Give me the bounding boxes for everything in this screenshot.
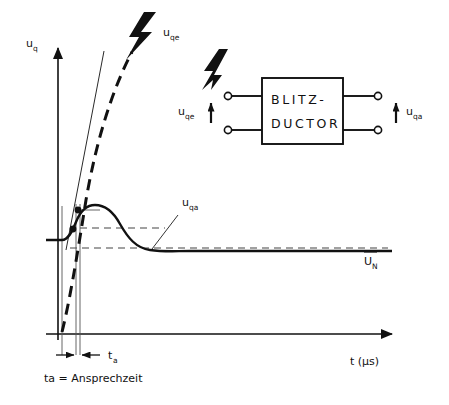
output-voltage-label-sub: qa — [413, 112, 422, 121]
ta-dim-label-sub: a — [113, 356, 118, 365]
un-label: U N — [364, 252, 378, 271]
output-voltage-label: u qa — [406, 105, 422, 121]
response-point-upper — [75, 207, 82, 214]
y-axis-label-sub: q — [33, 44, 38, 53]
diagram-canvas: u q t (µs) U N u qa u qe — [0, 0, 449, 405]
ta-dimension: t a — [56, 349, 118, 365]
terminal-circle-icon-input-bottom — [224, 126, 231, 133]
uqa-leader-line — [152, 215, 178, 249]
uqa-label-main: u — [182, 196, 189, 209]
terminal-circle-icon-output-bottom — [374, 126, 381, 133]
output-voltage-label-main: u — [406, 105, 413, 118]
input-voltage-label-sub: qe — [185, 112, 195, 121]
y-axis-label-main: u — [26, 37, 33, 50]
uqa-label-sub: qa — [189, 203, 198, 212]
input-voltage-label: u qe — [178, 105, 195, 121]
figure-root: u q t (µs) U N u qa u qe — [0, 0, 449, 405]
uqe-curve-label: u qe — [163, 26, 180, 42]
blitzductor-box-line1: BLITZ- — [271, 92, 326, 107]
y-axis-label: u q — [26, 37, 38, 53]
lightning-bolt-icon-circuit — [202, 49, 228, 90]
uqe-label-sub: qe — [170, 33, 180, 42]
response-point-lower — [70, 226, 77, 233]
terminal-circle-icon-output-top — [374, 92, 381, 99]
blitzductor-box — [262, 78, 343, 144]
un-label-main: U — [364, 255, 372, 268]
caption-ansprechzeit: ta = Ansprechzeit — [44, 372, 143, 385]
input-voltage-label-main: u — [178, 105, 185, 118]
uqe-label-main: u — [163, 26, 170, 39]
terminal-circle-icon-input-top — [224, 92, 231, 99]
uqe-curve — [62, 52, 132, 332]
x-axis-label: t (µs) — [350, 355, 379, 368]
lightning-bolt-icon-uqe — [126, 12, 156, 60]
tangent-line — [66, 51, 104, 250]
uqa-label: u qa — [182, 196, 198, 212]
circuit-diagram: BLITZ- DUCTOR u qe u qa — [178, 49, 422, 144]
un-label-sub: N — [372, 262, 378, 271]
blitzductor-box-line2: DUCTOR — [271, 116, 340, 131]
x-axis-label-text: t (µs) — [350, 355, 379, 368]
